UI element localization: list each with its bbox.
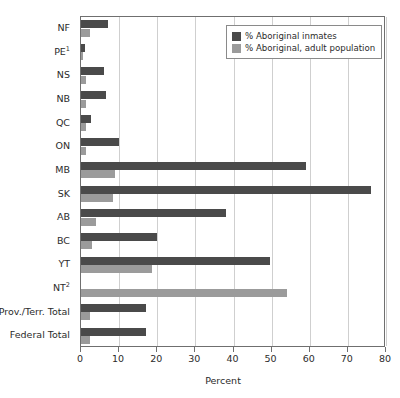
bar-inmates xyxy=(81,44,85,52)
bar-row xyxy=(81,206,384,230)
bar-inmates xyxy=(81,257,270,265)
y-axis-label-nb: NB xyxy=(56,87,70,111)
y-axis-label-sk: SK xyxy=(58,182,70,206)
x-tick-50 xyxy=(271,347,272,352)
bar-inmates xyxy=(81,209,226,217)
x-tick-80 xyxy=(385,347,386,352)
x-tick-70 xyxy=(347,347,348,352)
y-axis-label-pe: PE1 xyxy=(54,40,70,64)
x-tick-label-50: 50 xyxy=(265,353,277,364)
plot-area xyxy=(80,16,385,347)
bar-inmates xyxy=(81,162,306,170)
bar-adult-population xyxy=(81,100,86,108)
bar-row xyxy=(81,112,384,136)
bar-adult-population xyxy=(81,265,152,273)
legend-swatch-icon-inmates xyxy=(232,32,241,41)
bar-inmates xyxy=(81,138,119,146)
legend-item-inmates: % Aboriginal inmates xyxy=(232,30,375,42)
bar-row xyxy=(81,324,384,348)
bar-inmates xyxy=(81,67,104,75)
bar-row xyxy=(81,277,384,301)
y-axis-label-ns: NS xyxy=(57,63,70,87)
bar-row xyxy=(81,253,384,277)
x-axis-tick-labels: 01020304050607080 xyxy=(80,353,385,367)
x-tick-60 xyxy=(309,347,310,352)
y-axis-label-mb: MB xyxy=(55,158,70,182)
legend-swatch-icon-adult-population xyxy=(232,44,241,53)
bar-rows xyxy=(81,17,384,346)
x-axis-title: Percent xyxy=(0,375,400,386)
bar-inmates xyxy=(81,115,91,123)
bar-adult-population xyxy=(81,218,96,226)
y-axis-label-federaltotal: Federal Total xyxy=(10,323,70,347)
x-tick-label-40: 40 xyxy=(226,353,238,364)
x-tick-label-80: 80 xyxy=(379,353,391,364)
bar-inmates xyxy=(81,233,157,241)
x-axis-title-text: Percent xyxy=(159,375,241,386)
y-axis-label-on: ON xyxy=(55,134,70,158)
chart-legend: % Aboriginal inmates % Aboriginal, adult… xyxy=(226,25,382,59)
y-axis-label-provterrtotal: Prov./Terr. Total xyxy=(0,300,70,324)
x-tick-label-70: 70 xyxy=(341,353,353,364)
bar-adult-population xyxy=(81,289,287,297)
legend-label-inmates: % Aboriginal inmates xyxy=(245,30,337,42)
bar-row xyxy=(81,159,384,183)
y-axis-label-nt: NT2 xyxy=(53,276,70,300)
x-tick-label-30: 30 xyxy=(188,353,200,364)
x-tick-20 xyxy=(156,347,157,352)
x-tick-10 xyxy=(118,347,119,352)
x-tick-40 xyxy=(233,347,234,352)
bar-adult-population xyxy=(81,194,113,202)
bar-chart: NFPE1NSNBQCONMBSKABBCYTNT2Prov./Terr. To… xyxy=(0,0,400,398)
x-tick-label-10: 10 xyxy=(112,353,124,364)
x-tick-0 xyxy=(80,347,81,352)
x-tick-label-20: 20 xyxy=(150,353,162,364)
bar-inmates xyxy=(81,304,146,312)
bar-adult-population xyxy=(81,336,90,344)
x-tick-label-60: 60 xyxy=(303,353,315,364)
bar-row xyxy=(81,135,384,159)
bar-inmates xyxy=(81,20,108,28)
y-axis-label-nf: NF xyxy=(57,16,70,40)
bar-adult-population xyxy=(81,52,83,60)
x-tick-label-0: 0 xyxy=(77,353,83,364)
bar-inmates xyxy=(81,91,106,99)
gridline-80 xyxy=(386,17,387,346)
y-axis-label-yt: YT xyxy=(58,252,70,276)
bar-row xyxy=(81,301,384,325)
y-axis-labels: NFPE1NSNBQCONMBSKABBCYTNT2Prov./Terr. To… xyxy=(0,16,76,347)
legend-label-adult-population: % Aboriginal, adult population xyxy=(245,42,375,54)
bar-adult-population xyxy=(81,76,86,84)
bar-row xyxy=(81,183,384,207)
legend-item-adult-population: % Aboriginal, adult population xyxy=(232,42,375,54)
y-axis-label-ab: AB xyxy=(57,205,70,229)
bar-adult-population xyxy=(81,241,92,249)
bar-row xyxy=(81,230,384,254)
y-axis-label-bc: BC xyxy=(57,229,70,253)
y-axis-label-qc: QC xyxy=(56,111,70,135)
bar-adult-population xyxy=(81,147,86,155)
bar-adult-population xyxy=(81,312,90,320)
bar-row xyxy=(81,64,384,88)
x-tick-30 xyxy=(194,347,195,352)
bar-row xyxy=(81,88,384,112)
bar-adult-population xyxy=(81,29,90,37)
bar-inmates xyxy=(81,186,371,194)
bar-adult-population xyxy=(81,170,115,178)
bar-adult-population xyxy=(81,123,86,131)
bar-inmates xyxy=(81,328,146,336)
